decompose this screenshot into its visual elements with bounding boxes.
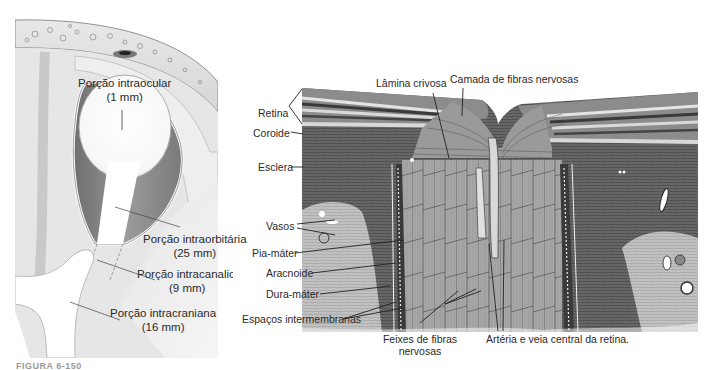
label-intracanalicular-name: Porção intracanalicular — [137, 267, 233, 281]
label-dura-mater: Dura-máter — [266, 288, 319, 300]
label-intracanalicular: Porção intracanalicular (9 mm) — [137, 267, 233, 295]
label-intraocular-measure: (1 mm) — [78, 90, 171, 104]
label-vasos: Vasos — [266, 220, 294, 232]
label-retina: Retina — [258, 107, 288, 119]
label-intracranial-measure: (16 mm) — [110, 320, 216, 334]
label-intraocular: Porção intraocular (1 mm) — [78, 76, 171, 104]
label-aracnoide: Aracnoide — [266, 267, 313, 279]
label-espacos-intermembranas: Espaços intermembranas — [242, 313, 361, 325]
figure-caption: FIGURA 6-150 — [16, 361, 82, 370]
label-feixes-line1: Feixes de fibras — [380, 333, 460, 345]
label-esclera: Esclera — [258, 161, 293, 173]
histology-illustration — [302, 88, 698, 332]
label-feixes-line2: nervosas — [380, 345, 460, 357]
label-intraocular-name: Porção intraocular — [78, 76, 171, 90]
label-intracranial: Porção intracraniana (16 mm) — [110, 306, 216, 334]
label-intracranial-name: Porção intracraniana — [110, 306, 216, 320]
label-intraorbital-measure: (25 mm) — [143, 246, 247, 260]
label-lamina-crivosa: Lâmina crivosa — [376, 77, 447, 89]
label-intraorbital-name: Porção intraorbitária — [143, 232, 247, 246]
optic-disc-histology — [302, 88, 698, 332]
label-pia-mater: Pia-máter — [252, 247, 298, 259]
label-coroide: Coroide — [253, 127, 290, 139]
label-camada-fibras: Camada de fibras nervosas — [450, 73, 578, 85]
label-arteria-veia: Artéria e veia central da retina. — [486, 333, 629, 345]
label-intracanalicular-measure: (9 mm) — [137, 281, 233, 295]
label-feixes-fibras: Feixes de fibras nervosas — [380, 333, 460, 357]
label-intraorbital: Porção intraorbitária (25 mm) — [143, 232, 247, 260]
